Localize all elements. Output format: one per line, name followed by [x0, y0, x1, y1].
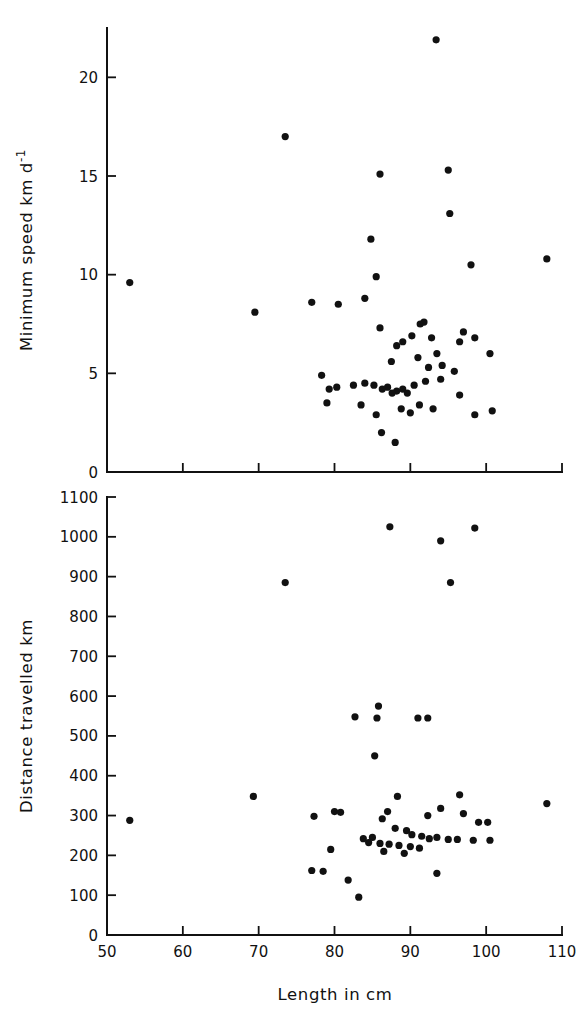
data-point: [414, 354, 421, 361]
data-point: [333, 384, 340, 391]
bottom-panel-points: [126, 523, 550, 901]
data-point: [357, 401, 364, 408]
x-tick-label: 60: [173, 943, 192, 961]
data-point: [388, 358, 395, 365]
data-point: [373, 273, 380, 280]
data-point: [471, 524, 478, 531]
data-point: [426, 835, 433, 842]
data-point: [408, 332, 415, 339]
top-panel: 05101520 Minimum speed km d-1: [14, 28, 562, 482]
bottom-panel-x-ticklabels: 5060708090100110: [97, 943, 576, 961]
data-point: [543, 255, 550, 262]
data-point: [367, 236, 374, 243]
data-point: [308, 299, 315, 306]
data-point: [401, 850, 408, 857]
data-point: [407, 843, 414, 850]
data-point: [337, 809, 344, 816]
data-point: [389, 389, 396, 396]
data-point: [370, 382, 377, 389]
data-point: [446, 210, 453, 217]
data-point: [486, 350, 493, 357]
data-point: [456, 338, 463, 345]
data-point: [414, 714, 421, 721]
bottom-panel: 010020030040050060070080090010001100 506…: [17, 489, 576, 1005]
data-point: [378, 429, 385, 436]
x-axis-title: Length in cm: [278, 985, 393, 1004]
top-panel-axes: [107, 28, 562, 472]
data-point: [439, 362, 446, 369]
data-point: [386, 523, 393, 530]
y-tick-label: 900: [69, 568, 98, 586]
data-point: [484, 819, 491, 826]
data-point: [445, 836, 452, 843]
data-point: [380, 848, 387, 855]
x-tick-label: 110: [548, 943, 577, 961]
y-tick-label: 500: [69, 727, 98, 745]
y-tick-label: 20: [79, 69, 98, 87]
data-point: [456, 391, 463, 398]
data-point: [424, 812, 431, 819]
data-point: [379, 815, 386, 822]
data-point: [282, 579, 289, 586]
top-panel-points: [126, 36, 550, 446]
data-point: [326, 386, 333, 393]
data-point: [429, 405, 436, 412]
data-point: [407, 409, 414, 416]
data-point: [386, 841, 393, 848]
data-point: [433, 834, 440, 841]
data-point: [365, 839, 372, 846]
data-point: [345, 876, 352, 883]
data-point: [418, 833, 425, 840]
data-point: [437, 537, 444, 544]
y-tick-label: 0: [88, 464, 98, 482]
data-point: [447, 579, 454, 586]
x-tick-label: 80: [325, 943, 344, 961]
data-point: [411, 382, 418, 389]
x-tick-label: 70: [249, 943, 268, 961]
top-y-axis-title-text: Minimum speed km d: [17, 162, 36, 351]
data-point: [467, 261, 474, 268]
bottom-y-axis-title-text: Distance travelled km: [17, 619, 36, 813]
data-point: [416, 401, 423, 408]
data-point: [392, 825, 399, 832]
data-point: [399, 338, 406, 345]
data-point: [424, 714, 431, 721]
bottom-panel-axes: [107, 497, 562, 935]
data-point: [475, 819, 482, 826]
data-point: [460, 328, 467, 335]
data-point: [428, 334, 435, 341]
data-point: [451, 368, 458, 375]
data-point: [395, 842, 402, 849]
data-point: [437, 805, 444, 812]
data-point: [373, 714, 380, 721]
data-point: [331, 808, 338, 815]
data-point: [371, 752, 378, 759]
data-point: [355, 894, 362, 901]
top-panel-y-ticklabels: 05101520: [79, 69, 98, 482]
data-point: [373, 411, 380, 418]
data-point: [422, 378, 429, 385]
data-point: [408, 831, 415, 838]
data-point: [251, 309, 258, 316]
data-point: [433, 350, 440, 357]
data-point: [335, 301, 342, 308]
data-point: [454, 836, 461, 843]
data-point: [471, 334, 478, 341]
data-point: [361, 380, 368, 387]
data-point: [460, 810, 467, 817]
data-point: [376, 324, 383, 331]
data-point: [376, 170, 383, 177]
data-point: [470, 837, 477, 844]
data-point: [489, 407, 496, 414]
data-point: [282, 133, 289, 140]
data-point: [425, 364, 432, 371]
data-point: [250, 793, 257, 800]
y-tick-label: 1100: [60, 489, 98, 507]
data-point: [376, 840, 383, 847]
y-tick-label: 600: [69, 688, 98, 706]
data-point: [308, 867, 315, 874]
svg-text:Minimum speed km d-1: Minimum speed km d-1: [14, 149, 36, 351]
data-point: [433, 36, 440, 43]
data-point: [420, 318, 427, 325]
data-point: [416, 845, 423, 852]
